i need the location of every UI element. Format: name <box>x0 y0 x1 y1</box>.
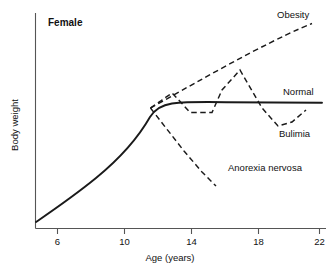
x-tick-label-18: 18 <box>253 236 264 247</box>
x-tick-label-22: 22 <box>314 236 325 247</box>
panel-title-female: Female <box>48 17 83 28</box>
x-tick-label-6: 6 <box>55 236 60 247</box>
series-label-anorexia-nervosa: Anorexia nervosa <box>228 162 303 173</box>
y-axis-title: Body weight <box>9 99 20 151</box>
x-tick-label-14: 14 <box>186 236 197 247</box>
chart-canvas: 6 10 14 18 22 Age (years) Body weight Fe… <box>0 0 335 267</box>
curve-bulimia <box>151 70 307 126</box>
x-tick-marks <box>58 229 320 235</box>
x-axis-title: Age (years) <box>145 252 194 263</box>
series-label-normal: Normal <box>283 86 314 97</box>
growth-curve-figure: 6 10 14 18 22 Age (years) Body weight Fe… <box>0 0 335 267</box>
x-tick-label-10: 10 <box>119 236 130 247</box>
axes-group <box>36 13 327 229</box>
curve-anorexia-nervosa <box>151 108 217 186</box>
series-label-obesity: Obesity <box>277 9 309 20</box>
series-label-bulimia: Bulimia <box>279 128 311 139</box>
x-tick-labels: 6 10 14 18 22 <box>55 236 325 247</box>
